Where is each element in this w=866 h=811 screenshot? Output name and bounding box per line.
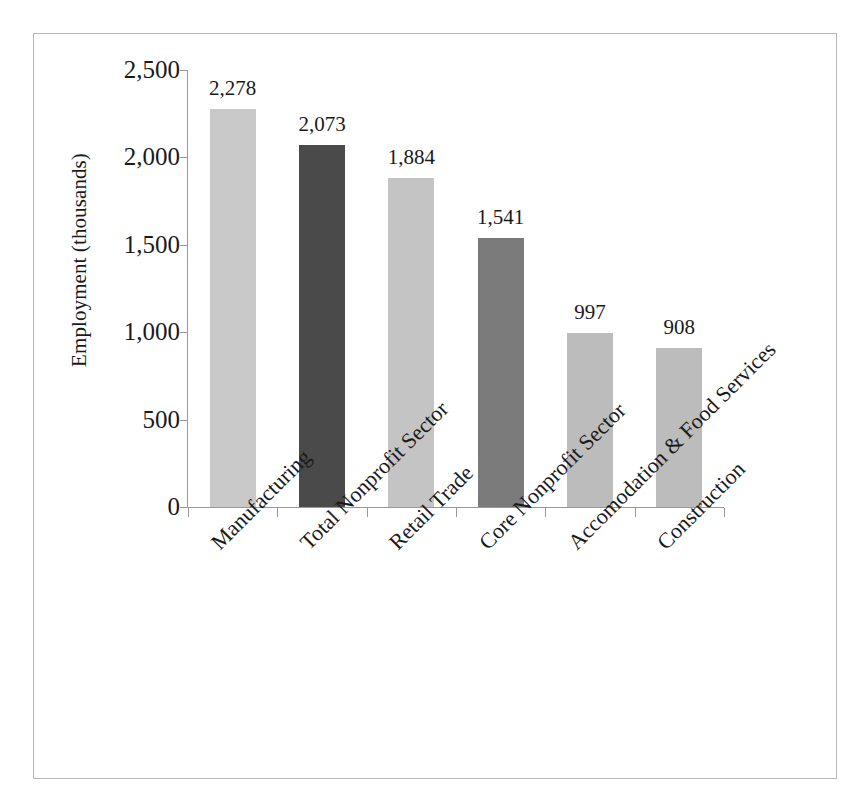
x-axis-category-label-text: Core Nonprofit Sector — [475, 399, 630, 554]
x-axis-category-label: Total Nonprofit Sector — [296, 398, 452, 554]
x-axis-category-label-text: Retail Trade — [386, 462, 478, 554]
x-axis-category-label: Core Nonprofit Sector — [475, 399, 630, 554]
chart-page: Employment (thousands) 2,5002,0001,5001,… — [0, 0, 866, 811]
x-axis-category-label-text: Total Nonprofit Sector — [296, 398, 452, 554]
x-axis-category-label: Construction — [654, 458, 750, 554]
x-axis-category-label: Retail Trade — [386, 462, 478, 554]
x-axis-category-labels: ManufacturingTotal Nonprofit SectorRetai… — [0, 0, 866, 811]
x-axis-category-label-text: Construction — [654, 458, 750, 554]
